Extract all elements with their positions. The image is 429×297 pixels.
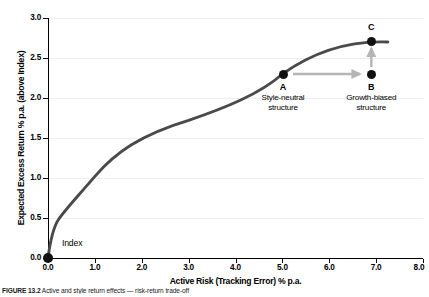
point-letter-a: A xyxy=(253,82,313,92)
figure-caption: FIGURE 13.2 Active and style return effe… xyxy=(2,287,421,294)
data-point-c[interactable] xyxy=(367,37,376,46)
data-point-a[interactable] xyxy=(279,70,288,79)
point-caption-b-line1: Growth-biased xyxy=(316,93,426,103)
data-point-index[interactable] xyxy=(43,253,53,263)
point-letter-c: C xyxy=(341,22,401,32)
point-letter-b: B xyxy=(341,82,401,92)
point-caption-b-line2: structure xyxy=(316,103,426,113)
data-point-b[interactable] xyxy=(367,70,376,79)
point-caption-b: Growth-biased structure xyxy=(316,93,426,113)
figure-caption-text: Active and style return effects — risk-r… xyxy=(40,287,188,294)
point-label-index: Index xyxy=(62,238,82,248)
figure-caption-number: FIGURE 13.2 xyxy=(2,287,40,294)
